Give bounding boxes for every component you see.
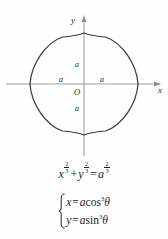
implicit-term3-base: a [98, 167, 104, 181]
parametric-row-y: y=asin3θ [66, 213, 110, 227]
implicit-term1-base: x [59, 167, 64, 181]
y-axis-arrowhead [82, 15, 87, 22]
astroid-figure: y x O a a a a [0, 0, 168, 160]
param-x-function: cos [86, 196, 101, 208]
segment-label-up: a [75, 61, 79, 69]
parametric-system: x=acos3θ y=asin3θ [0, 193, 168, 229]
parametric-row-x: x=acos3θ [66, 195, 110, 209]
segment-label-right: a [100, 76, 104, 84]
astroid-svg [0, 0, 168, 160]
figure-page: y x O a a a a x23+y23=a23 x=acos3θ y=a [0, 0, 168, 239]
param-y-function: sin [86, 214, 99, 226]
segment-label-down: a [75, 105, 79, 113]
x-axis-label: x [158, 86, 162, 95]
segment-label-left: a [59, 76, 63, 84]
implicit-equation: x23+y23=a23 [0, 161, 168, 182]
implicit-equals-sign: = [89, 167, 98, 181]
system-brace-icon [58, 193, 65, 229]
y-axis-label: y [71, 16, 75, 25]
origin-label: O [74, 88, 80, 97]
param-y-angle: θ [102, 214, 108, 226]
implicit-term3-exponent: 23 [104, 161, 109, 175]
implicit-plus-sign: + [69, 167, 78, 181]
param-x-equals: = [71, 196, 80, 208]
param-x-angle: θ [104, 196, 110, 208]
implicit-term2-base: y [78, 167, 83, 181]
param-y-equals: = [71, 214, 80, 226]
